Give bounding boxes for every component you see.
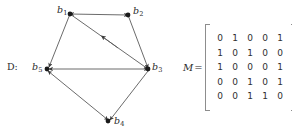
matrix-grid: 0 1 0 0 1 1 0 1 0 0 1 0 0 0	[210, 24, 291, 111]
digraph-panel: D: b1 b2 b3 b4 b5	[0, 0, 180, 137]
matrix-cell: 1	[273, 75, 288, 90]
node-b2[interactable]	[126, 13, 131, 18]
matrix-equation: M = 0 1 0 0 1 1 0 1 0 0 1	[183, 24, 292, 111]
matrix-cell: 0	[213, 31, 228, 46]
node-b4[interactable]	[106, 119, 111, 124]
matrix-cell: 0	[273, 89, 288, 104]
node-label-b4: b4	[114, 116, 124, 126]
equals-sign: =	[194, 62, 202, 73]
matrix-cell: 1	[243, 89, 258, 104]
edge-b1-b2	[70, 14, 128, 15]
node-b3[interactable]	[146, 67, 151, 72]
edge-b3-b4	[110, 71, 148, 120]
table-row: 0 0 1 0 1	[213, 75, 288, 90]
edge-b3-b1-mid-arrow	[103, 37, 118, 48]
matrix-cell: 0	[258, 46, 273, 61]
matrix-name-label: M	[183, 62, 193, 73]
node-label-b5: b5	[32, 62, 42, 72]
table-row: 1 0 1 0 0	[213, 46, 288, 61]
matrix-cell: 0	[243, 31, 258, 46]
node-label-b2-sub: 2	[139, 10, 143, 18]
matrix-cell: 0	[273, 46, 288, 61]
node-label-b2: b2	[133, 6, 143, 16]
matrix-panel: M = 0 1 0 0 1 1 0 1 0 0 1	[180, 0, 292, 137]
matrix-cell: 1	[243, 75, 258, 90]
matrix-cell: 1	[258, 89, 273, 104]
matrix-cell: 1	[228, 31, 243, 46]
node-label-b5-sub: 5	[38, 66, 42, 74]
node-group	[45, 12, 151, 124]
matrix-cell: 1	[273, 31, 288, 46]
node-label-b3: b3	[152, 62, 162, 72]
edge-group	[48, 14, 148, 120]
matrix-right-bracket	[291, 24, 292, 111]
matrix-cell: 0	[258, 75, 273, 90]
edge-b5-b4	[48, 71, 108, 120]
table-row: 0 1 0 0 1	[213, 31, 288, 46]
node-label-b1-sub: 1	[63, 9, 67, 17]
matrix-cell: 1	[273, 60, 288, 75]
matrix-cell: 0	[228, 89, 243, 104]
node-b5[interactable]	[45, 67, 50, 72]
table-row: 1 0 0 0 1	[213, 60, 288, 75]
matrix-cell: 1	[243, 46, 258, 61]
node-label-b4-sub: 4	[120, 120, 124, 128]
matrix-cell: 0	[213, 75, 228, 90]
digraph-adjacency-matrix-figure: D: b1 b2 b3 b4 b5 M = 0 1 0 0 1 1 0	[0, 0, 292, 137]
matrix-cell: 0	[228, 60, 243, 75]
matrix-cell: 0	[258, 31, 273, 46]
matrix-cell: 0	[228, 46, 243, 61]
matrix-cell: 1	[213, 60, 228, 75]
matrix-cell: 0	[213, 89, 228, 104]
table-row: 0 0 1 1 0	[213, 89, 288, 104]
node-b1[interactable]	[68, 12, 73, 17]
edge-b2-b3	[128, 15, 148, 68]
edge-b1-b5	[49, 14, 70, 67]
matrix-cell: 0	[243, 60, 258, 75]
node-label-b1: b1	[57, 5, 67, 15]
matrix-cell: 0	[258, 60, 273, 75]
node-label-b3-sub: 3	[158, 66, 162, 74]
matrix-cell: 0	[228, 75, 243, 90]
matrix-cell: 1	[213, 46, 228, 61]
digraph-caption: D:	[7, 62, 18, 72]
